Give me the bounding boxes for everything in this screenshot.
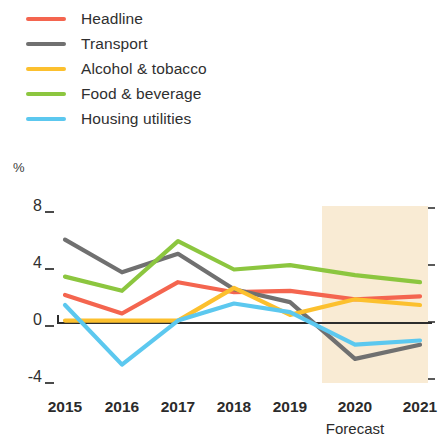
series-lines <box>0 150 437 437</box>
plot-area: % 840-4 2015201620172018201920202021 For… <box>0 150 437 437</box>
legend-item-headline[interactable]: Headline <box>26 6 207 31</box>
legend-label-headline: Headline <box>81 10 143 28</box>
forecast-caption: Forecast <box>310 420 400 437</box>
series-line-headline <box>65 282 420 313</box>
legend-label-transport: Transport <box>81 35 148 53</box>
x-tick-label-2018: 2018 <box>204 398 264 416</box>
legend-swatch-alcohol_tobacco <box>26 67 66 71</box>
legend-item-housing_utilities[interactable]: Housing utilities <box>26 106 207 131</box>
legend-item-transport[interactable]: Transport <box>26 31 207 56</box>
legend-swatch-transport <box>26 42 66 46</box>
legend-item-alcohol_tobacco[interactable]: Alcohol & tobacco <box>26 56 207 81</box>
legend-label-housing_utilities: Housing utilities <box>81 110 191 128</box>
legend-item-food_beverage[interactable]: Food & beverage <box>26 81 207 106</box>
series-line-food-beverage <box>65 241 420 291</box>
x-tick-label-2016: 2016 <box>92 398 152 416</box>
x-tick-label-2020: 2020 <box>325 398 385 416</box>
legend-swatch-headline <box>26 17 66 21</box>
legend-swatch-food_beverage <box>26 92 66 96</box>
legend-label-food_beverage: Food & beverage <box>81 85 201 103</box>
legend-label-alcohol_tobacco: Alcohol & tobacco <box>81 60 207 78</box>
x-tick-label-2019: 2019 <box>260 398 320 416</box>
x-tick-label-2017: 2017 <box>148 398 208 416</box>
chart-legend: HeadlineTransportAlcohol & tobaccoFood &… <box>26 6 207 131</box>
legend-swatch-housing_utilities <box>26 117 66 121</box>
x-tick-label-2021: 2021 <box>390 398 442 416</box>
x-tick-label-2015: 2015 <box>35 398 95 416</box>
